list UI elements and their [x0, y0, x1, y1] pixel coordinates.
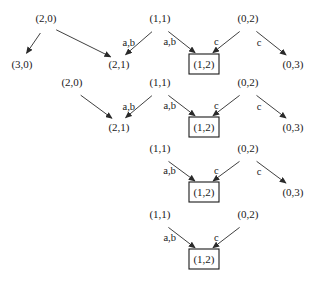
state-node: (1,1) — [149, 12, 170, 25]
target-state-label: (1,2) — [193, 186, 214, 199]
edge-label: c — [214, 165, 219, 176]
edge-label: a,b — [163, 100, 176, 111]
state-node: (2,1) — [108, 58, 129, 71]
edge-arrow — [81, 95, 112, 118]
edge-arrow — [27, 33, 41, 53]
state-diagram: a,ba,bcca,ba,bcca,bcca,bc (2,0)(1,1)(0,2… — [0, 0, 321, 284]
edge-label: c — [257, 166, 262, 177]
state-node: (0,2) — [237, 208, 258, 221]
edge-label: c — [257, 101, 262, 112]
target-state-label: (1,2) — [193, 253, 214, 266]
state-node: (0,2) — [237, 142, 258, 155]
target-state-label: (1,2) — [193, 58, 214, 71]
edge-label: c — [214, 232, 219, 243]
state-node: (1,1) — [149, 142, 170, 155]
state-node: (1,1) — [149, 208, 170, 221]
state-node: (2,0) — [35, 12, 56, 25]
edge-label: c — [214, 36, 219, 47]
edge-label: a,b — [123, 101, 136, 112]
state-node: (2,1) — [108, 121, 129, 134]
target-state-label: (1,2) — [193, 121, 214, 134]
state-node: (0,3) — [282, 121, 303, 134]
edge-label: a,b — [123, 37, 136, 48]
state-node: (3,0) — [11, 58, 32, 71]
state-node: (2,0) — [61, 76, 82, 89]
state-node: (0,3) — [282, 58, 303, 71]
edge-label: a,b — [163, 232, 176, 243]
edge-label: a,b — [163, 165, 176, 176]
state-node: (1,1) — [149, 76, 170, 89]
edge-label: c — [257, 37, 262, 48]
state-node: (0,2) — [237, 12, 258, 25]
edge-label: a,b — [163, 36, 176, 47]
edge-arrow — [56, 30, 110, 57]
state-node: (0,2) — [237, 76, 258, 89]
state-node: (0,3) — [282, 186, 303, 199]
nodes-layer: (2,0)(1,1)(0,2)(3,0)(2,1)(1,2)(0,3)(2,0)… — [11, 12, 303, 269]
edge-label: c — [214, 100, 219, 111]
